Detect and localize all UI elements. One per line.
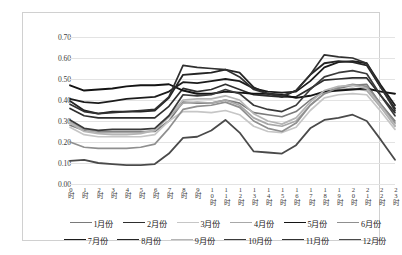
x-axis-tick-label: 6时 — [151, 186, 158, 199]
legend-label: 10月份 — [248, 234, 271, 246]
legend-label: 7月份 — [88, 234, 108, 246]
x-axis-tick-label: 16时 — [293, 186, 300, 205]
legend-item[interactable]: 3月份 — [177, 217, 221, 229]
chart-frame: 0.000.100.200.300.400.500.600.70 0时1时2时3… — [22, 12, 380, 241]
gridline — [70, 184, 395, 185]
x-axis-tick-label: 4时 — [123, 186, 130, 199]
x-axis-tick-label: 20时 — [349, 186, 356, 205]
x-axis-tick-label: 0时 — [67, 186, 74, 199]
x-axis-tick-label: 1时 — [81, 186, 88, 199]
legend-line-swatch — [284, 222, 306, 223]
x-axis-tick-label: 23时 — [392, 186, 399, 205]
legend-label: 9月份 — [195, 234, 215, 246]
legend-item[interactable]: 8月份 — [117, 234, 161, 246]
x-axis-tick-label: 12时 — [236, 186, 243, 205]
x-axis-labels: 0时1时2时3时4时5时6时7时8时9时10时11时12时13时14时15时16… — [70, 186, 395, 212]
legend-item[interactable]: 6月份 — [337, 217, 381, 229]
x-axis-tick-label: 17时 — [307, 186, 314, 205]
legend-item[interactable]: 2月份 — [123, 217, 167, 229]
x-axis-tick-label: 2时 — [95, 186, 102, 199]
legend-row: 1月份2月份3月份4月份5月份6月份 — [53, 214, 397, 231]
legend-line-swatch — [64, 239, 86, 240]
x-axis-tick-label: 3时 — [109, 186, 116, 199]
series-line — [70, 115, 395, 165]
legend-item[interactable]: 10月份 — [224, 234, 271, 246]
x-axis-tick-label: 18时 — [321, 186, 328, 205]
x-axis-tick-label: 9时 — [194, 186, 201, 199]
x-axis-tick-label: 7时 — [166, 186, 173, 199]
legend-label: 8月份 — [141, 234, 161, 246]
x-axis-tick-label: 15时 — [279, 186, 286, 205]
legend-line-swatch — [230, 222, 252, 223]
legend-item[interactable]: 7月份 — [64, 234, 108, 246]
legend-label: 2月份 — [147, 217, 167, 229]
plot-area — [70, 37, 395, 184]
legend-label: 5月份 — [308, 217, 328, 229]
legend-line-swatch — [171, 239, 193, 240]
x-axis-tick-label: 13时 — [250, 186, 257, 205]
legend-label: 12月份 — [363, 234, 386, 246]
legend-item[interactable]: 5月份 — [284, 217, 328, 229]
series-layer — [70, 37, 395, 184]
line-series-svg — [70, 37, 395, 184]
x-axis-tick-label: 5时 — [137, 186, 144, 199]
x-axis-tick-label: 14时 — [265, 186, 272, 205]
x-axis-tick-label: 8时 — [180, 186, 187, 199]
chart-legend: 1月份2月份3月份4月份5月份6月份7月份8月份9月份10月份11月份12月份 — [53, 214, 397, 248]
x-axis-tick-label: 21时 — [363, 186, 370, 205]
legend-line-swatch — [123, 222, 145, 223]
legend-row: 7月份8月份9月份10月份11月份12月份 — [53, 231, 397, 248]
legend-item[interactable]: 11月份 — [282, 234, 329, 246]
legend-item[interactable]: 4月份 — [230, 217, 274, 229]
legend-line-swatch — [339, 239, 361, 240]
x-axis-tick-label: 19时 — [335, 186, 342, 205]
legend-label: 6月份 — [361, 217, 381, 229]
x-axis-tick-label: 11时 — [222, 186, 229, 205]
legend-label: 11月份 — [306, 234, 329, 246]
legend-item[interactable]: 1月份 — [70, 217, 114, 229]
legend-line-swatch — [177, 222, 199, 223]
x-axis-tick-label: 10时 — [208, 186, 215, 205]
legend-label: 1月份 — [94, 217, 114, 229]
legend-line-swatch — [337, 222, 359, 223]
y-axis-labels: 0.000.100.200.300.400.500.600.70 — [47, 37, 71, 184]
legend-label: 4月份 — [254, 217, 274, 229]
legend-line-swatch — [117, 239, 139, 240]
legend-item[interactable]: 12月份 — [339, 234, 386, 246]
legend-line-swatch — [70, 222, 92, 223]
legend-line-swatch — [282, 239, 304, 240]
legend-item[interactable]: 9月份 — [171, 234, 215, 246]
legend-line-swatch — [224, 239, 246, 240]
legend-label: 3月份 — [201, 217, 221, 229]
x-axis-tick-label: 22时 — [378, 186, 385, 205]
